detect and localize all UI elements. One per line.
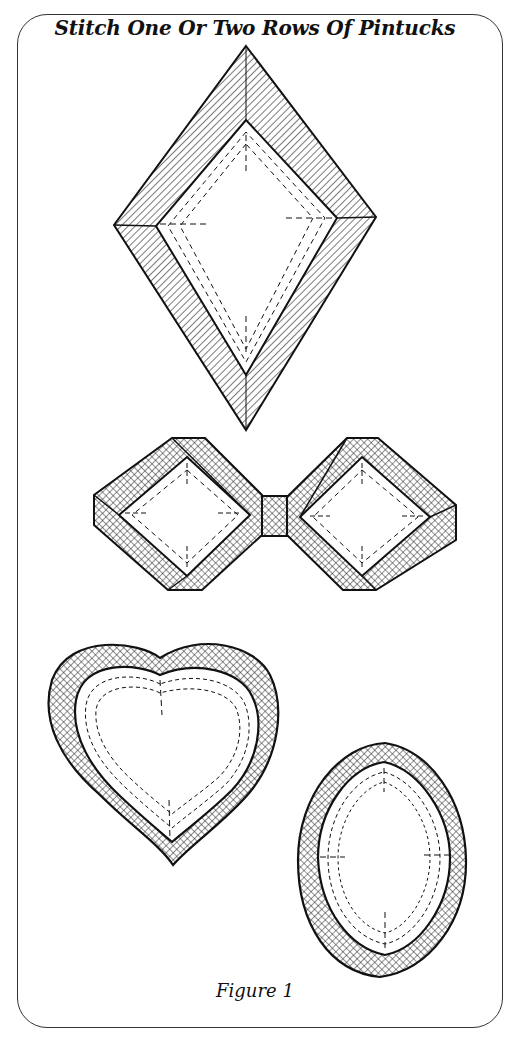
oval-shape: [298, 743, 466, 977]
bow-tie-shape: [94, 438, 456, 590]
heart-shape: [49, 644, 279, 865]
figure-caption: Figure 1: [0, 980, 510, 1001]
diamond-shape: [114, 46, 376, 430]
figure-illustration: [0, 0, 510, 1042]
